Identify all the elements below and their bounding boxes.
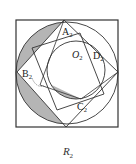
label-A2: A2 — [62, 26, 72, 38]
label-D2: D2 — [93, 50, 103, 62]
figure-caption: R2 — [0, 145, 136, 160]
label-C2: C2 — [77, 101, 87, 113]
label-B2: B2 — [22, 68, 32, 80]
geometry-diagram: A2 B2 C2 D2 O2 — [0, 0, 136, 164]
label-O2: O2 — [72, 49, 82, 61]
shaded-segments-outer — [0, 0, 66, 140]
